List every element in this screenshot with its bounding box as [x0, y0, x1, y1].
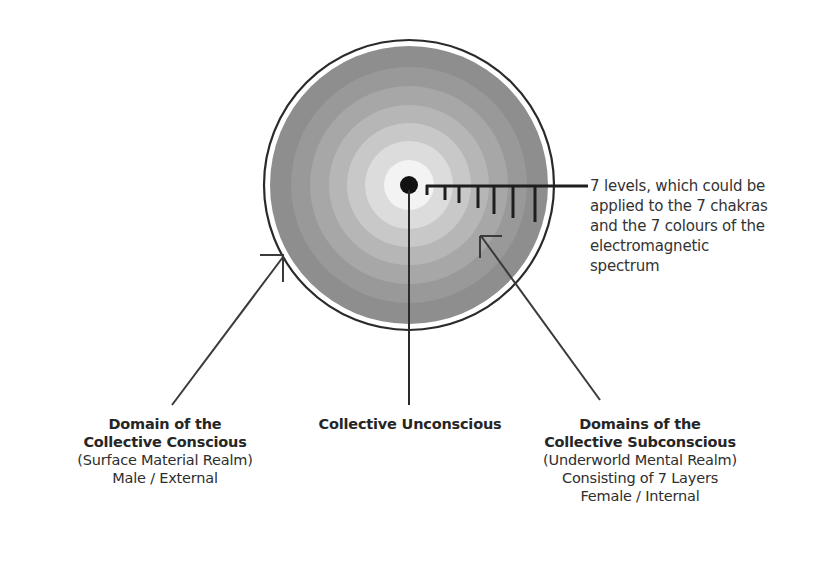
collective-conscious-title: Domain of the	[40, 415, 290, 433]
conscious-pointer-arrow	[172, 255, 284, 405]
collective-conscious-detail: Male / External	[40, 469, 290, 487]
collective-unconscious-title: Collective Unconscious	[285, 415, 535, 433]
collective-subconscious-detail: Female / Internal	[520, 487, 760, 505]
collective-subconscious-label: Domains of the Collective Subconscious (…	[520, 415, 760, 505]
collective-unconscious-label: Collective Unconscious	[285, 415, 535, 433]
levels-annotation-line: and the 7 colours of the	[590, 216, 790, 236]
subconscious-pointer-arrow	[480, 236, 600, 400]
levels-annotation-line: applied to the 7 chakras	[590, 196, 790, 216]
collective-conscious-subtitle: (Surface Material Realm)	[40, 451, 290, 469]
levels-annotation-line: electromagnetic	[590, 236, 790, 256]
collective-subconscious-detail: Consisting of 7 Layers	[520, 469, 760, 487]
collective-subconscious-title: Collective Subconscious	[520, 433, 760, 451]
levels-annotation-line: 7 levels, which could be	[590, 176, 790, 196]
collective-conscious-label: Domain of the Collective Conscious (Surf…	[40, 415, 290, 487]
levels-annotation: 7 levels, which could be applied to the …	[590, 176, 790, 276]
collective-conscious-title: Collective Conscious	[40, 433, 290, 451]
collective-subconscious-title: Domains of the	[520, 415, 760, 433]
collective-subconscious-subtitle: (Underworld Mental Realm)	[520, 451, 760, 469]
levels-annotation-line: spectrum	[590, 256, 790, 276]
